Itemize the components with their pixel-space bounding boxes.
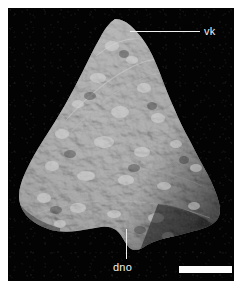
annotation-label-vk: vk: [204, 26, 215, 37]
specimen-photograph: vk dno: [8, 8, 234, 281]
leader-line-vk: [130, 31, 200, 32]
leader-line-dno: [126, 229, 127, 259]
figure-panel: vk dno: [0, 0, 241, 289]
specimen-object: [8, 8, 234, 281]
specimen-body: [8, 8, 234, 281]
specimen-illustration: [8, 8, 234, 281]
annotation-label-dno: dno: [113, 262, 132, 273]
scale-bar: [179, 266, 232, 273]
